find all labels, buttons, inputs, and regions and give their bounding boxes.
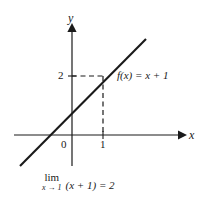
x-axis-arrowhead [178,130,187,139]
limit-operator-text: lim [44,172,59,183]
x-axis-label: x [189,129,194,141]
function-line [20,39,146,166]
limit-subscript: x → 1 [42,184,62,192]
limit-graph-figure: y x 0 1 2 f(x) = x + 1 lim x → 1 (x + 1)… [0,0,202,202]
origin-tick-label: 0 [61,139,67,150]
y-tick-label-two: 2 [58,70,64,81]
y-axis-label: y [68,12,73,24]
limit-expression: lim x → 1 (x + 1) = 2 [42,172,115,192]
x-tick-label-one: 1 [100,139,106,150]
limit-operator: lim x → 1 [42,172,62,192]
function-equation-label: f(x) = x + 1 [117,70,169,81]
limit-body: (x + 1) = 2 [66,180,115,192]
